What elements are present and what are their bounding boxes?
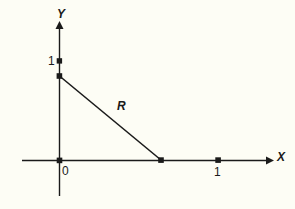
x-axis-tick-label-1: 1	[214, 166, 221, 178]
x-axis-label: X	[277, 151, 285, 163]
plot-canvas	[0, 0, 295, 209]
origin-label: 0	[62, 165, 69, 177]
point-x-intercept-marker	[158, 157, 164, 163]
point-y-intercept-marker	[57, 73, 63, 79]
y-tick-1-marker	[57, 58, 62, 63]
origin-marker	[57, 158, 63, 164]
x-axis-arrowhead	[266, 157, 274, 165]
y-axis-tick-label-1: 1	[48, 55, 55, 67]
x-tick-1-marker	[215, 157, 221, 163]
segment-r-label: R	[117, 100, 126, 112]
y-axis-label: Y	[57, 8, 65, 20]
coordinate-plot-figure: Y X 0 1 1 R	[0, 0, 295, 209]
y-axis-arrowhead	[56, 21, 64, 29]
segment-r-line	[60, 76, 162, 160]
